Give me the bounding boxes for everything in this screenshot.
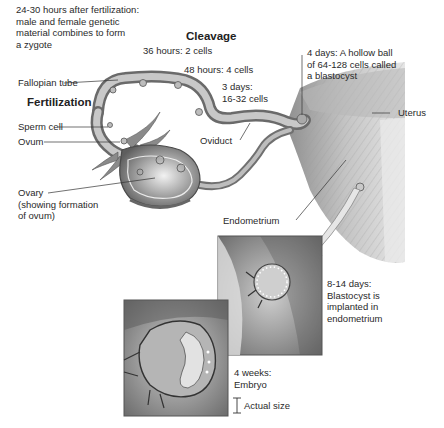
days8-14-note-line: implanted in (327, 301, 382, 313)
days4-note-line: a blastocyst (307, 70, 396, 82)
days8-14-note-line: endometrium (327, 313, 382, 325)
actual-size-scale-icon (233, 398, 241, 413)
actual-size-label: Actual size (244, 400, 290, 412)
ovum-label: Ovum (18, 136, 43, 148)
weeks4-note-line: Embryo (234, 379, 272, 391)
ovary-label-line: Ovary (18, 187, 98, 199)
ovary-label: Ovary (showing formation of ovum) (18, 187, 98, 222)
weeks4-note: 4 weeks: Embryo (234, 367, 272, 390)
zygote-note-line: male and female genetic (16, 16, 139, 28)
cleavage-heading: Cleavage (186, 31, 237, 43)
zygote-note: 24-30 hours after fertilization: male an… (16, 4, 139, 50)
zygote-note-line: material combines to form (16, 27, 139, 39)
endometrium-label: Endometrium (223, 215, 280, 227)
days4-note: 4 days: A hollow ball of 64-128 cells ca… (307, 47, 396, 82)
ovary-label-line: of ovum) (18, 210, 98, 222)
days8-14-note: 8-14 days: Blastocyst is implanted in en… (327, 278, 382, 324)
days4-note-line: of 64-128 cells called (307, 59, 396, 71)
ovary (120, 145, 200, 208)
implantation-inset (218, 236, 322, 355)
embryo-inset (124, 300, 228, 416)
uterus-label: Uterus (398, 107, 426, 119)
fertilization-heading: Fertilization (27, 97, 92, 109)
hours48-note: 48 hours: 4 cells (184, 64, 253, 76)
days4-note-line: 4 days: A hollow ball (307, 47, 396, 59)
days3-note-line: 16-32 cells (222, 93, 268, 105)
days3-note: 3 days: 16-32 cells (222, 81, 268, 104)
days8-14-note-line: 8-14 days: (327, 278, 382, 290)
days8-14-note-line: Blastocyst is (327, 290, 382, 302)
days3-note-line: 3 days: (222, 81, 268, 93)
hours36-note: 36 hours: 2 cells (143, 45, 212, 57)
zygote-note-line: 24-30 hours after fertilization: (16, 4, 139, 16)
zygote-note-line: a zygote (16, 39, 139, 51)
ovary-label-line: (showing formation (18, 199, 98, 211)
fallopian-tube-label: Fallopian tube (18, 77, 78, 89)
uterus (286, 62, 405, 263)
weeks4-note-line: 4 weeks: (234, 367, 272, 379)
sperm-cell-label: Sperm cell (18, 121, 63, 133)
oviduct-label: Oviduct (200, 135, 232, 147)
